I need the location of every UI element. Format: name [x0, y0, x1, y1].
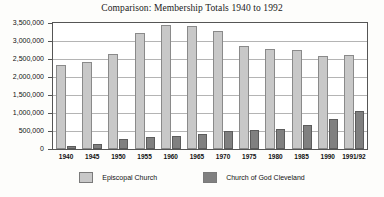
x-axis-tick-label: 1945: [85, 152, 99, 161]
x-axis-tick-label: 1980: [268, 152, 282, 161]
x-axis-tick-label: 1960: [164, 152, 178, 161]
bar-episcopal-church-1985: [292, 50, 302, 149]
bar-church-of-god-cleveland-1940: [67, 146, 76, 149]
bar-church-of-god-cleveland-1970: [224, 131, 233, 149]
bar-episcopal-church-1975: [239, 46, 249, 149]
bar-group: [210, 23, 236, 149]
bar-episcopal-church-1955: [135, 33, 145, 149]
bar-church-of-god-cleveland-1960: [172, 136, 181, 149]
bar-group: [184, 23, 210, 149]
x-axis: 1940194519501955196019651970197519801985…: [53, 152, 367, 164]
y-axis-tick-label: 3,500,000: [13, 19, 44, 27]
bar-episcopal-church-1980: [265, 49, 275, 149]
bar-group: [236, 23, 262, 149]
bar-episcopal-church-1960: [161, 25, 171, 149]
legend-item: Episcopal Church: [79, 172, 157, 183]
y-axis-tick-label: 2,000,000: [13, 73, 44, 81]
chart-container: Comparison: Membership Totals 1940 to 19…: [0, 0, 384, 197]
bar-church-of-god-cleveland-1945: [93, 144, 102, 149]
bar-church-of-god-cleveland-1985: [303, 125, 312, 149]
x-axis-tick-label: 1991/92: [342, 152, 366, 161]
x-axis-tick-label: 1985: [294, 152, 308, 161]
bar-group: [53, 23, 79, 149]
bar-episcopal-church-1940: [56, 65, 66, 149]
bar-group: [341, 23, 367, 149]
y-axis-tick-label: 500,000: [19, 127, 44, 135]
legend-label: Episcopal Church: [102, 174, 157, 181]
bar-group: [105, 23, 131, 149]
bar-group: [289, 23, 315, 149]
bar-episcopal-church-1950: [108, 54, 118, 149]
bar-church-of-god-cleveland-1980: [276, 129, 285, 149]
x-axis-tick-label: 1950: [111, 152, 125, 161]
bar-church-of-god-cleveland-1990: [329, 119, 338, 149]
legend-swatch-dark: [203, 172, 217, 183]
y-axis-tick-label: 2,500,000: [13, 55, 44, 63]
bar-church-of-god-cleveland-1950: [119, 139, 128, 149]
bars-layer: [53, 23, 367, 149]
bar-episcopal-church-1990: [318, 56, 328, 149]
legend-swatch-light: [79, 172, 93, 183]
bar-group: [315, 23, 341, 149]
x-axis-tick-label: 1955: [137, 152, 151, 161]
legend-label: Church of God Cleveland: [226, 174, 305, 181]
y-axis-tick-label: 1,500,000: [13, 91, 44, 99]
bar-church-of-god-cleveland-1965: [198, 134, 207, 149]
bar-church-of-god-cleveland-1955: [146, 137, 155, 149]
bar-episcopal-church-1970: [213, 31, 223, 149]
legend-item: Church of God Cleveland: [203, 172, 305, 183]
x-axis-tick-label: 1975: [242, 152, 256, 161]
y-axis-tick-label: 0: [40, 145, 44, 153]
bar-church-of-god-cleveland-1991-92: [355, 111, 364, 149]
bar-group: [158, 23, 184, 149]
bar-group: [262, 23, 288, 149]
x-axis-tick-label: 1965: [190, 152, 204, 161]
bar-episcopal-church-1991-92: [344, 55, 354, 149]
x-axis-tick-label: 1970: [216, 152, 230, 161]
chart-title: Comparison: Membership Totals 1940 to 19…: [0, 3, 384, 13]
y-axis-tick-label: 3,000,000: [13, 37, 44, 45]
x-axis-tick-label: 1940: [59, 152, 73, 161]
bar-episcopal-church-1945: [82, 62, 92, 149]
x-axis-tick-label: 1990: [321, 152, 335, 161]
bar-church-of-god-cleveland-1975: [250, 130, 259, 149]
y-axis-tick-label: 1,000,000: [13, 109, 44, 117]
bar-group: [79, 23, 105, 149]
chart-legend: Episcopal ChurchChurch of God Cleveland: [0, 169, 384, 185]
y-axis: 3,500,0003,000,0002,500,0002,000,0001,50…: [0, 22, 48, 150]
bar-episcopal-church-1965: [187, 26, 197, 149]
bar-group: [132, 23, 158, 149]
